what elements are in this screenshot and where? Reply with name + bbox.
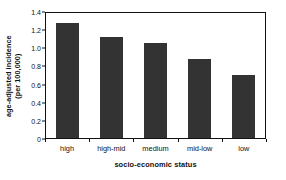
bar-chart-figure: age-adjusted incidence (per 100,000) 00.… <box>0 0 286 180</box>
bar-slot <box>90 13 134 138</box>
plot-area <box>45 12 266 139</box>
bar-group <box>46 13 265 138</box>
x-axis-tick-label: high-mid <box>89 144 133 156</box>
x-axis-title: socio-economic status <box>45 160 266 169</box>
y-axis-title-line1: age-adjusted incidence <box>4 35 13 117</box>
bar-high <box>56 23 79 138</box>
x-axis-tick-label: mid-low <box>178 144 222 156</box>
bar-slot <box>221 13 265 138</box>
x-axis-tick-mark <box>133 139 134 142</box>
bar-mid-low <box>188 59 211 138</box>
y-axis-tick-label: 0 <box>37 136 41 143</box>
bar-slot <box>177 13 221 138</box>
x-axis-tick-label: high <box>45 144 89 156</box>
x-axis-tick-label: low <box>222 144 266 156</box>
x-axis-tick-labels: highhigh-midmediummid-lowlow <box>45 144 266 156</box>
bar-high-mid <box>100 37 123 138</box>
y-axis-tick-label: 0.6 <box>31 81 41 88</box>
y-axis-title: age-adjusted incidence (per 100,000) <box>0 0 26 152</box>
y-axis-tick-label: 0.8 <box>31 63 41 70</box>
bar-low <box>232 75 255 138</box>
y-axis-tick-label: 1.2 <box>31 27 41 34</box>
x-axis-ticks <box>45 139 266 143</box>
y-axis-tick-label: 1.0 <box>31 45 41 52</box>
y-axis-ticks: 00.20.40.60.81.01.21.4 <box>26 0 45 180</box>
y-axis-title-line2: (per 100,000) <box>13 35 22 117</box>
x-axis-tick-mark <box>45 139 46 142</box>
y-axis-tick-label: 0.4 <box>31 99 41 106</box>
bar-slot <box>134 13 178 138</box>
bar-medium <box>144 43 167 138</box>
bar-slot <box>46 13 90 138</box>
x-axis-tick-label: medium <box>133 144 177 156</box>
x-axis-tick-mark <box>222 139 223 142</box>
y-axis-title-text: age-adjusted incidence (per 100,000) <box>4 35 22 117</box>
y-axis-tick-label: 1.4 <box>31 9 41 16</box>
x-axis-tick-mark <box>89 139 90 142</box>
x-axis-tick-mark <box>178 139 179 142</box>
x-axis-tick-mark <box>266 139 267 142</box>
y-axis-tick-label: 0.2 <box>31 117 41 124</box>
